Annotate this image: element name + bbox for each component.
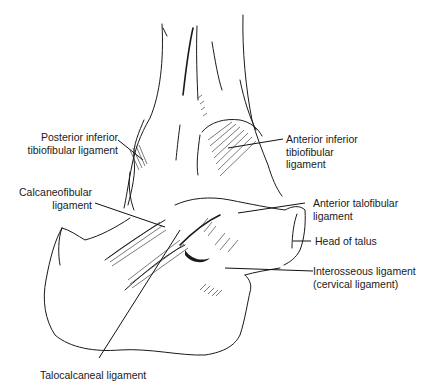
label-line: Posterior inferior — [2, 131, 118, 144]
label-head-of-talus: Head of talus — [315, 235, 377, 248]
tibia-bone — [176, 15, 282, 196]
label-line: Anterior inferior — [286, 133, 358, 146]
leader-posterior-inferior-tibiofibular — [118, 140, 143, 160]
leader-anterior-talofibular — [238, 203, 305, 213]
label-posterior-inferior-tibiofibular-ligament: Posterior inferior tibiofibular ligament — [2, 131, 118, 156]
label-line: (cervical ligament) — [313, 278, 416, 291]
label-line: Talocalcaneal ligament — [40, 369, 146, 382]
label-line: ligament — [2, 199, 92, 212]
label-line: Anterior talofibular — [313, 197, 398, 210]
talus-bone — [175, 198, 305, 265]
label-talocalcaneal-ligament: Talocalcaneal ligament — [40, 369, 146, 382]
label-line: Interosseous ligament — [313, 265, 416, 278]
leader-anterior-inferior-tibiofibular — [228, 139, 283, 148]
label-line: ligament — [286, 158, 358, 171]
posterior-inferior-tibiofibular-fibers — [129, 145, 147, 210]
label-line: Head of talus — [315, 235, 377, 248]
label-interosseous-ligament: Interosseous ligament (cervical ligament… — [313, 265, 416, 290]
label-line: tibiofibular ligament — [2, 144, 118, 157]
fibula-bone — [124, 24, 167, 208]
label-calcaneofibular-ligament: Calcaneofibular ligament — [2, 186, 92, 211]
label-line: tibiofibular — [286, 146, 358, 159]
label-anterior-inferior-tibiofibular-ligament: Anterior inferior tibiofibular ligament — [286, 133, 358, 171]
calcaneus-bone — [44, 218, 280, 355]
label-line: ligament — [313, 210, 398, 223]
label-anterior-talofibular-ligament: Anterior talofibular ligament — [313, 197, 398, 222]
leader-calcaneofibular — [95, 203, 165, 227]
leader-talocalcaneal — [99, 230, 180, 358]
leader-interosseous — [225, 268, 313, 271]
label-line: Calcaneofibular — [2, 186, 92, 199]
